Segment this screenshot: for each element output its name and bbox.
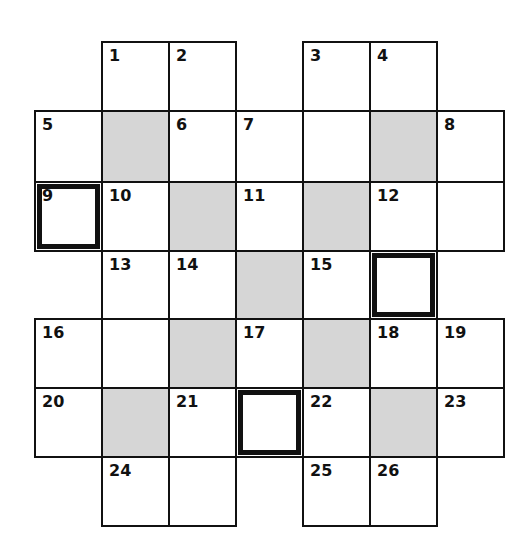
clue-number: 14: [176, 256, 198, 274]
grid-cell[interactable]: 19: [436, 318, 505, 389]
clue-number: 16: [42, 324, 64, 342]
grid-cell[interactable]: 15: [302, 250, 371, 320]
grid-cell[interactable]: 11: [235, 181, 304, 252]
grid-cell[interactable]: 21: [168, 387, 237, 458]
clue-number: 25: [310, 462, 332, 480]
shaded-cell: [168, 181, 237, 252]
clue-number: 9: [42, 187, 53, 205]
grid-cell[interactable]: 26: [369, 456, 438, 527]
shaded-cell: [302, 318, 371, 389]
grid-cell[interactable]: 12: [369, 181, 438, 252]
clue-number: 3: [310, 47, 321, 65]
clue-number: 20: [42, 393, 64, 411]
grid-cell[interactable]: 24: [101, 456, 170, 527]
clue-number: 19: [444, 324, 466, 342]
grid-cell[interactable]: 16: [34, 318, 103, 389]
shaded-cell: [302, 181, 371, 252]
grid-cell[interactable]: 13: [101, 250, 170, 320]
grid-cell[interactable]: 14: [168, 250, 237, 320]
grid-cell[interactable]: 7: [235, 110, 304, 183]
grid-cell[interactable]: [168, 456, 237, 527]
clue-number: 24: [109, 462, 131, 480]
clue-number: 13: [109, 256, 131, 274]
clue-number: 8: [444, 116, 455, 134]
clue-number: 26: [377, 462, 399, 480]
clue-number: 4: [377, 47, 388, 65]
shaded-cell: [101, 387, 170, 458]
clue-number: 11: [243, 187, 265, 205]
grid-cell[interactable]: 8: [436, 110, 505, 183]
crossword-grid: 1234567891011121314151617181920212223242…: [0, 0, 529, 556]
grid-cell[interactable]: 25: [302, 456, 371, 527]
grid-cell[interactable]: 4: [369, 41, 438, 112]
clue-number: 10: [109, 187, 131, 205]
highlighted-cell[interactable]: [369, 250, 438, 320]
grid-cell[interactable]: 6: [168, 110, 237, 183]
shaded-cell: [369, 387, 438, 458]
clue-number: 17: [243, 324, 265, 342]
shaded-cell: [101, 110, 170, 183]
grid-cell[interactable]: 22: [302, 387, 371, 458]
grid-cell[interactable]: 5: [34, 110, 103, 183]
grid-cell[interactable]: [302, 110, 371, 183]
highlighted-cell[interactable]: 9: [34, 181, 103, 252]
clue-number: 7: [243, 116, 254, 134]
clue-number: 1: [109, 47, 120, 65]
shaded-cell: [369, 110, 438, 183]
clue-number: 12: [377, 187, 399, 205]
grid-cell[interactable]: 2: [168, 41, 237, 112]
clue-number: 2: [176, 47, 187, 65]
grid-cell[interactable]: 23: [436, 387, 505, 458]
clue-number: 23: [444, 393, 466, 411]
clue-number: 22: [310, 393, 332, 411]
clue-number: 15: [310, 256, 332, 274]
shaded-cell: [235, 250, 304, 320]
grid-cell[interactable]: [101, 318, 170, 389]
grid-cell[interactable]: 17: [235, 318, 304, 389]
grid-cell[interactable]: 18: [369, 318, 438, 389]
clue-number: 21: [176, 393, 198, 411]
clue-number: 18: [377, 324, 399, 342]
clue-number: 6: [176, 116, 187, 134]
grid-cell[interactable]: 1: [101, 41, 170, 112]
grid-cell[interactable]: [436, 181, 505, 252]
grid-cell[interactable]: 20: [34, 387, 103, 458]
shaded-cell: [168, 318, 237, 389]
clue-number: 5: [42, 116, 53, 134]
grid-cell[interactable]: 10: [101, 181, 170, 252]
highlighted-cell[interactable]: [235, 387, 304, 458]
grid-cell[interactable]: 3: [302, 41, 371, 112]
